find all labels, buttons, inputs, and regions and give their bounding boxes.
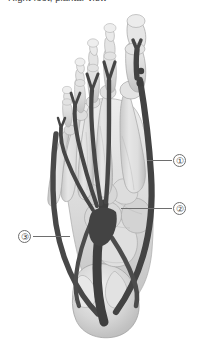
anatomy-figure: Right foot, plantar view [0,0,200,342]
leader-line-2 [121,208,172,209]
toe-2-ip-joint [104,52,116,60]
leader-line-1 [147,160,172,161]
callout-number-2[interactable]: ② [173,202,186,215]
insertion-fork-toe-5 [58,118,65,128]
toe-4-tip [75,58,85,66]
pulley-mtp-1b [138,68,144,74]
tendon-fhl-insertion [136,50,137,78]
callout-number-3[interactable]: ③ [18,230,31,243]
leader-line-3 [33,236,70,237]
toe-1-tip [127,15,145,28]
figure-caption: Right foot, plantar view [8,0,107,3]
foot-illustration [0,6,200,342]
callout-number-1[interactable]: ① [173,154,186,167]
toe-3-tip [88,39,99,47]
toe-3-ip-joint [88,64,99,72]
toe-4-ip-joint [75,80,85,87]
pulley-mtp-1 [136,79,143,86]
toe-5-ip-joint [63,99,72,105]
toe-2-tip [104,24,116,33]
